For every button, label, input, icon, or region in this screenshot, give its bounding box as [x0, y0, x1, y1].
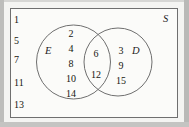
right-margin-strip: [184, 0, 189, 127]
element-only-e-2: 4: [63, 44, 79, 54]
universal-set-rectangle: [10, 8, 178, 118]
element-outside-4: 11: [14, 78, 28, 88]
element-only-e-1: 2: [63, 29, 79, 39]
element-outside-5: 13: [14, 100, 28, 110]
left-margin-strip: [0, 0, 4, 127]
element-only-e-4: 10: [63, 74, 79, 84]
venn-diagram-figure: S E D 1 5 7 11 13 2 4 8 10 14 6 12 3 9 1…: [0, 0, 189, 127]
element-outside-3: 7: [14, 55, 28, 65]
element-only-d-3: 15: [113, 76, 129, 86]
set-d-label: D: [132, 46, 140, 57]
element-only-e-5: 14: [63, 89, 79, 99]
element-only-e-3: 8: [63, 59, 79, 69]
set-e-label: E: [45, 46, 51, 57]
element-intersection-1: 6: [88, 49, 104, 59]
element-outside-1: 1: [14, 15, 28, 25]
universal-set-label: S: [163, 14, 168, 25]
element-only-d-2: 9: [113, 61, 129, 71]
bottom-margin-strip: [0, 122, 189, 127]
element-only-d-1: 3: [113, 46, 129, 56]
element-intersection-2: 12: [88, 70, 104, 80]
element-outside-2: 5: [14, 36, 28, 46]
